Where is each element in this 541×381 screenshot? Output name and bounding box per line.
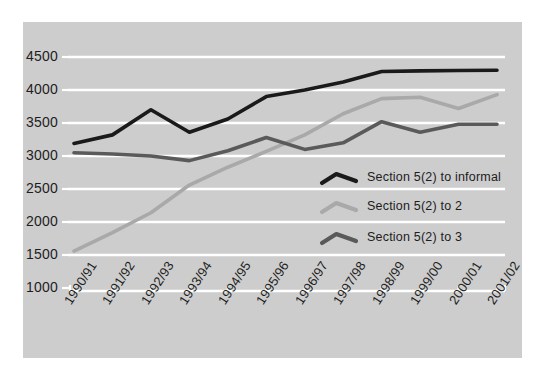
legend-swatch-3 [322,234,356,243]
y-axis-tick-label: 2500 [12,180,58,196]
y-axis-tick-label: 1500 [12,246,58,262]
y-axis-tick-label: 1000 [12,279,58,295]
legend-swatches-group [322,174,356,243]
y-axis-tick-label: 4500 [12,48,58,64]
legend-swatch-2 [322,203,356,212]
line-chart-canvas [0,0,541,381]
series-line-1 [74,70,497,143]
legend-label-2: Section 5(2) to 2 [367,199,462,213]
chart-figure: 10001500200025003000350040004500 1990/91… [0,0,541,381]
y-axis-tick-label: 4000 [12,81,58,97]
series-lines-group [74,70,497,251]
series-line-3 [74,122,497,161]
legend-swatch-1 [322,174,356,183]
legend-label-3: Section 5(2) to 3 [367,230,462,244]
y-axis-tick-label: 2000 [12,213,58,229]
y-axis-tick-label: 3000 [12,147,58,163]
legend-label-1: Section 5(2) to informal [367,170,501,184]
y-axis-tick-label: 3500 [12,114,58,130]
